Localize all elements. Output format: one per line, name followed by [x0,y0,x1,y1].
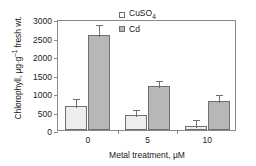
error-cap-cd-5 [156,81,163,82]
error-bar-cd-10 [219,95,220,103]
y-axis-tick-label: 2000 [33,53,52,63]
x-axis-tick-label: 0 [85,135,90,145]
y-axis-title-superscript: –1 [11,50,18,57]
y-axis-tick [54,95,58,96]
y-axis-tick-label: 0 [47,127,52,137]
y-axis-tick [54,40,58,41]
bar-cd-10 [208,101,230,130]
y-axis-tick-label: 3000 [33,16,52,26]
legend-label-cuso4: CuSO4 [129,8,156,22]
legend-item-cuso4: CuSO4 [119,8,156,22]
y-axis-title: Chlorophyll, µg·g–1 fresh wt. [11,4,23,132]
y-axis-tick [54,132,58,133]
y-axis-tick-label: 1500 [33,72,52,82]
error-cap-cuso4-10 [193,120,200,121]
bar-cuso4-0 [65,106,87,130]
legend-swatch-cd-icon [119,26,125,32]
error-bar-cd-0 [99,25,100,37]
y-axis-tick [54,114,58,115]
x-axis-title: Metal treatment, µM [57,150,237,160]
y-axis-tick-label: 500 [38,109,52,119]
error-cap-cuso4-5 [133,110,140,111]
error-bar-cuso4-10 [196,120,197,129]
y-axis-title-tail: fresh wt. [13,16,23,49]
chart-legend: CuSO4 Cd [119,8,156,37]
x-axis-tick-label: 5 [145,135,150,145]
error-cap-cuso4-0 [73,99,80,100]
legend-swatch-cuso4-icon [119,12,125,18]
y-axis-tick [54,77,58,78]
bar-cuso4-5 [125,115,147,130]
x-axis-tick-label: 10 [202,135,211,145]
legend-item-cd: Cd [119,24,156,35]
y-axis-tick [54,58,58,59]
bar-cd-5 [148,86,170,130]
error-bar-cd-5 [159,81,160,88]
x-axis-tick [118,130,119,134]
bar-cd-0 [88,35,110,130]
error-bar-cuso4-5 [136,110,137,117]
error-cap-cd-10 [216,95,223,96]
chart-figure: Chlorophyll, µg·g–1 fresh wt. Metal trea… [0,0,256,166]
error-bar-cuso4-0 [76,99,77,108]
legend-label-cd: Cd [129,24,140,35]
y-axis-tick-label: 2500 [33,35,52,45]
y-axis-tick [54,21,58,22]
y-axis-tick-label: 1000 [33,90,52,100]
error-cap-cd-0 [96,25,103,26]
y-axis-title-lead: Chlorophyll, µg·g [13,57,23,120]
x-axis-tick [177,130,178,134]
